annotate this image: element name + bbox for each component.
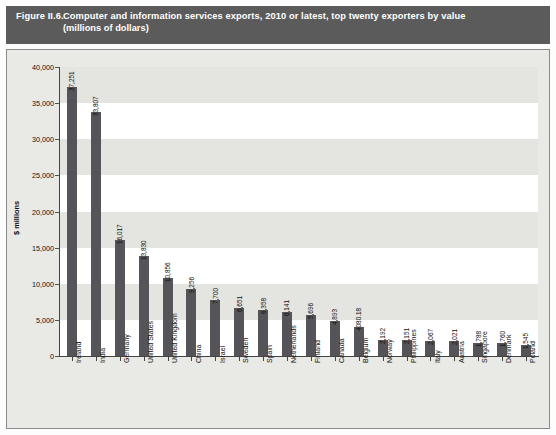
bar-value-label: 6,358 xyxy=(260,298,267,314)
x-axis-category-label: Italy xyxy=(434,350,441,363)
x-axis-tick-mark xyxy=(168,357,169,361)
plot-band xyxy=(60,212,538,248)
bar-value-label: 33,807 xyxy=(92,96,99,116)
x-axis-tick-mark xyxy=(311,357,312,361)
plot-band xyxy=(60,284,538,320)
x-axis-tick-mark xyxy=(144,357,145,361)
x-axis-tick-mark xyxy=(454,357,455,361)
x-axis-tick-mark xyxy=(359,357,360,361)
bar[interactable] xyxy=(67,87,77,356)
figure-title-line-1: Figure II.6.Computer and information ser… xyxy=(16,11,542,21)
figure-title-bar: Figure II.6.Computer and information ser… xyxy=(6,6,550,44)
x-axis-tick-mark xyxy=(526,357,527,361)
x-axis-category-label: Poland xyxy=(529,341,536,363)
x-axis-tick-mark xyxy=(287,357,288,361)
bar-value-label: 9,256 xyxy=(188,277,195,293)
bar-value-label: 2,067 xyxy=(427,329,434,345)
x-axis-category-label: Philippines xyxy=(410,329,417,363)
x-axis-category-label: China xyxy=(195,345,202,363)
y-axis-tick-label: 20,000 xyxy=(32,207,54,216)
x-axis-category-label: Canada xyxy=(338,338,345,363)
x-axis-tick-mark xyxy=(478,357,479,361)
bar-value-label: 6,651 xyxy=(236,296,243,312)
x-axis-tick-mark xyxy=(72,357,73,361)
x-axis-line xyxy=(59,356,539,357)
figure-number: Figure II.6. xyxy=(16,11,63,21)
x-axis-tick-mark xyxy=(430,357,431,361)
y-axis-tick-label: 5,000 xyxy=(36,315,54,324)
y-axis-tick-label: 0 xyxy=(50,352,54,361)
x-axis-category-label: Germany xyxy=(123,334,130,363)
plot-band xyxy=(60,67,538,103)
bar-value-label: 13,830 xyxy=(140,241,147,261)
chart-frame: $ millions 05,00010,00015,00020,00025,00… xyxy=(6,49,550,429)
bar-value-label: 5,696 xyxy=(307,303,314,319)
x-axis-tick-mark xyxy=(407,357,408,361)
bar-value-label: 4,893 xyxy=(331,309,338,325)
bar-value-label: 2,021 xyxy=(451,329,458,345)
bar-value-label: 2,151 xyxy=(403,328,410,344)
x-axis-category-label: Singapore xyxy=(481,331,488,363)
bar[interactable] xyxy=(91,112,101,356)
x-axis-tick-mark xyxy=(335,357,336,361)
y-axis-tick-group: 05,00010,00015,00020,00025,00030,00035,0… xyxy=(7,67,60,356)
y-axis-tick-label: 35,000 xyxy=(32,99,54,108)
figure-title-text: Computer and information services export… xyxy=(63,11,465,21)
x-axis-tick-mark xyxy=(383,357,384,361)
figure-page: Figure II.6.Computer and information ser… xyxy=(0,0,556,435)
y-axis-tick-label: 40,000 xyxy=(32,63,54,72)
x-axis-category-label: Ireland xyxy=(75,342,82,363)
x-axis-tick-mark xyxy=(263,357,264,361)
bar-value-label: 16,017 xyxy=(116,225,123,245)
x-axis-category-label: Sweden xyxy=(242,338,249,363)
x-axis-category-label: United Kingdom xyxy=(171,313,178,363)
bar-value-label: 10,856 xyxy=(164,262,171,282)
x-axis-category-label: Finland xyxy=(314,340,321,363)
x-axis-category-label: Netherlands xyxy=(290,325,297,363)
y-axis-tick-label: 25,000 xyxy=(32,171,54,180)
bar-value-label: 7,700 xyxy=(212,288,219,304)
x-axis-category-label: Israel xyxy=(219,346,226,363)
bar-value-label: 37,251 xyxy=(68,71,75,91)
x-axis-tick-mark xyxy=(502,357,503,361)
x-axis-category-label: Spain xyxy=(266,345,273,363)
x-axis-category-label: Denmark xyxy=(505,335,512,363)
x-axis-tick-mark xyxy=(215,357,216,361)
bar-value-label: 2,192 xyxy=(379,328,386,344)
x-axis-tick-mark xyxy=(239,357,240,361)
figure-subtitle: (millions of dollars) xyxy=(63,23,542,33)
y-axis-line xyxy=(59,67,60,357)
bar-value-label: 4080.18 xyxy=(355,307,362,330)
y-axis-tick-label: 10,000 xyxy=(32,279,54,288)
y-axis-tick-label: 30,000 xyxy=(32,135,54,144)
plot-band xyxy=(60,139,538,175)
x-axis-category-label: United States xyxy=(147,321,154,363)
x-axis-category-label: Norway xyxy=(386,339,393,363)
x-axis-tick-mark xyxy=(120,357,121,361)
plot-area xyxy=(60,67,538,356)
x-axis-category-label: India xyxy=(99,348,106,363)
x-axis-tick-mark xyxy=(96,357,97,361)
bar-value-label: 6,141 xyxy=(283,300,290,316)
y-axis-tick-label: 15,000 xyxy=(32,243,54,252)
x-axis-tick-mark xyxy=(191,357,192,361)
x-axis-category-label: Belgium xyxy=(362,338,369,363)
x-axis-category-label: Austria xyxy=(458,341,465,363)
